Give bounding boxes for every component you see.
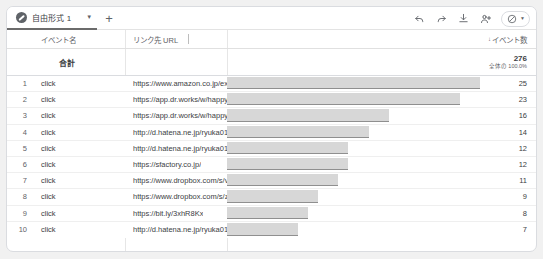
row-index: 1 [7,76,33,91]
table-row[interactable]: 5clickhttp://d.hatena.ne.jp/ryuka01...12 [7,141,536,157]
row-event-count: 16 [480,108,536,123]
row-event-count: 7 [480,222,536,238]
table-row[interactable]: 3clickhttps://app.dr.works/w/happya...16 [7,108,536,124]
totals-row: 合計 276 全体の 100.0% [7,49,536,76]
header-event-name[interactable]: イベント名 [33,30,125,48]
row-event-name[interactable]: click [33,189,125,204]
row-index: 9 [7,206,33,221]
event-count-bar [227,174,338,186]
event-count-bar [227,93,460,105]
event-count-bar [227,223,298,236]
row-event-count: 9 [480,189,536,204]
bar-track [227,189,480,204]
pencil-circle-icon [16,12,27,23]
row-link-url-text: https://app.dr.works/w/happya... [133,95,238,104]
share-user-icon[interactable] [479,12,492,25]
row-index: 10 [7,222,33,238]
access-restricted-button[interactable]: ▼ [501,11,530,27]
bar-track [227,157,480,172]
row-event-count: 23 [480,92,536,107]
totals-label: 合計 [33,49,125,75]
table-row[interactable]: 1clickhttps://www.amazon.co.jp/ex...25 [7,76,536,92]
row-event-count: 8 [480,206,536,221]
event-count-bar [227,158,348,170]
download-icon[interactable] [457,12,470,25]
row-event-name[interactable]: click [33,108,125,123]
header-link-url[interactable]: リンク先 URL [125,30,480,48]
row-event-name[interactable]: click [33,173,125,188]
event-count-bar [227,126,369,138]
column-divider [125,49,126,75]
row-event-name[interactable]: click [33,76,125,91]
bar-track [227,125,480,140]
row-event-name[interactable]: click [33,157,125,172]
report-card: 自由形式 1 ▼ + [6,6,537,252]
row-index: 8 [7,189,33,204]
row-event-count: 11 [480,173,536,188]
chevron-down-icon[interactable]: ▼ [86,14,92,20]
totals-url-cell [125,49,480,75]
chevron-down-icon: ▼ [520,16,525,21]
event-count-bar [227,207,308,219]
totals-index [7,49,33,75]
header-resize-handle[interactable] [188,34,189,44]
tab-strip: 自由形式 1 ▼ + [7,7,536,30]
row-event-count: 14 [480,125,536,140]
table-rows: 1clickhttps://www.amazon.co.jp/ex...252c… [7,76,536,238]
table-header-row: イベント名 リンク先 URL ↓ イベント数 [7,30,536,49]
tab-free-form-1[interactable]: 自由形式 1 ▼ [7,7,97,30]
row-link-url-text: https://www.dropbox.com/s/v... [133,176,234,185]
header-event-count-label: イベント数 [492,34,527,45]
analytics-exploration-page: 自由形式 1 ▼ + [0,0,543,259]
row-event-count: 25 [480,76,536,91]
bar-track [227,108,480,123]
row-index: 7 [7,173,33,188]
row-link-url-text: http://d.hatena.ne.jp/ryuka01... [133,144,234,153]
bar-track [227,173,480,188]
row-index: 2 [7,92,33,107]
row-link-url-text: https://app.dr.works/w/happya... [133,111,238,120]
row-link-url-text: https://www.dropbox.com/s/zf... [133,192,237,201]
row-link-url-text: https://sfactory.co.jp/ [133,160,201,169]
row-event-name[interactable]: click [33,92,125,107]
row-event-name[interactable]: click [33,141,125,156]
redo-icon[interactable] [435,12,448,25]
row-event-name[interactable]: click [33,125,125,140]
event-count-bar [227,190,318,202]
event-count-bar [227,77,480,89]
header-event-count[interactable]: ↓ イベント数 [480,30,536,48]
row-event-name[interactable]: click [33,222,125,238]
header-link-url-label: リンク先 URL [133,34,178,45]
report-toolbar: ▼ [413,9,530,28]
table-row[interactable]: 2clickhttps://app.dr.works/w/happya...23 [7,92,536,108]
row-link-url-text: https://www.amazon.co.jp/ex... [133,79,234,88]
header-index [7,30,33,48]
row-link-url-text: https://bit.ly/3xhR8Kx [133,209,203,218]
table-row[interactable]: 8clickhttps://www.dropbox.com/s/zf...9 [7,189,536,205]
add-tab-button[interactable]: + [97,12,121,25]
row-index: 4 [7,125,33,140]
bar-track [227,141,480,156]
table-row[interactable]: 7clickhttps://www.dropbox.com/s/v...11 [7,173,536,189]
bar-track [227,76,480,91]
table-body: 1clickhttps://www.amazon.co.jp/ex...252c… [7,76,536,251]
undo-icon[interactable] [413,12,426,25]
table-row[interactable]: 6clickhttps://sfactory.co.jp/12 [7,157,536,173]
totals-value-cell: 276 全体の 100.0% [480,49,536,75]
row-index: 5 [7,141,33,156]
row-link-url-text: http://d.hatena.ne.jp/ryuka01... [133,225,234,234]
tab-label: 自由形式 1 [32,12,71,23]
event-count-bar [227,109,389,121]
table-row[interactable]: 9clickhttps://bit.ly/3xhR8Kx8 [7,206,536,222]
bar-track [227,92,480,107]
row-event-count: 12 [480,141,536,156]
event-count-bar [227,142,348,154]
bar-track [227,222,480,238]
sort-descending-icon: ↓ [488,36,491,42]
row-event-name[interactable]: click [33,206,125,221]
restricted-circle-icon [505,12,518,25]
totals-percent: 全体の 100.0% [489,63,527,69]
row-index: 6 [7,157,33,172]
table-row[interactable]: 4clickhttp://d.hatena.ne.jp/ryuka01...14 [7,125,536,141]
table-row[interactable]: 10clickhttp://d.hatena.ne.jp/ryuka01...7 [7,222,536,238]
